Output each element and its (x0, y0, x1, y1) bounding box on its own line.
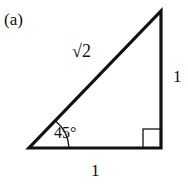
vertical-leg-label: 1 (173, 67, 182, 86)
right-triangle-diagram: (a) 45° √2 1 1 (0, 0, 188, 188)
panel-label: (a) (4, 10, 23, 29)
angle-label: 45° (54, 124, 76, 141)
triangle (29, 11, 161, 148)
hypotenuse-label: √2 (72, 41, 91, 61)
horizontal-leg-label: 1 (91, 161, 100, 180)
right-angle-marker (143, 129, 161, 148)
